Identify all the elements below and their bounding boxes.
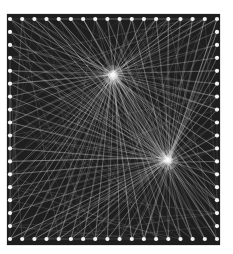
nail [215,43,219,47]
nail [130,237,134,241]
nail [105,237,109,241]
nail [215,224,219,228]
upper-focal-point [111,73,116,78]
nail [215,108,219,112]
nail [142,17,146,21]
nail [81,17,85,21]
nail [93,237,97,241]
nail [57,237,61,241]
nail [166,17,170,21]
nail [215,146,219,150]
nail [166,237,170,241]
lower-focal-point [166,158,171,163]
nail [203,237,207,241]
nail [215,237,219,241]
nail [8,224,12,228]
nail [215,82,219,86]
nail [44,17,48,21]
nail [215,95,219,99]
nail [93,17,97,21]
nail [8,133,12,137]
nail [8,211,12,215]
nail [203,17,207,21]
nail [215,120,219,124]
nail [215,185,219,189]
nail [191,237,195,241]
nail [215,17,219,21]
nail [215,198,219,202]
nail [215,30,219,34]
nail [20,17,24,21]
nail [8,69,12,73]
nail [8,17,12,21]
nail [118,17,122,21]
string-art-threads-and-nails [0,0,233,254]
nail [215,211,219,215]
nail [69,17,73,21]
nail [32,17,36,21]
nail [8,198,12,202]
nail [154,17,158,21]
nail [8,30,12,34]
nail [130,17,134,21]
nail [178,17,182,21]
nail [8,108,12,112]
nail [8,95,12,99]
nail [215,159,219,163]
nail [20,237,24,241]
nail [8,185,12,189]
nail [105,17,109,21]
nail [142,237,146,241]
nail [32,237,36,241]
nail [215,133,219,137]
nail [8,172,12,176]
nail [8,237,12,241]
nail [154,237,158,241]
nail [178,237,182,241]
nail [118,237,122,241]
nail [8,159,12,163]
nail [57,17,61,21]
nail [8,120,12,124]
nail [8,43,12,47]
nail [8,146,12,150]
string-art-photo [0,0,233,254]
nail [191,17,195,21]
nail [44,237,48,241]
nail [215,56,219,60]
nail [8,82,12,86]
nail [215,172,219,176]
nail [81,237,85,241]
nail [8,56,12,60]
nail [215,69,219,73]
nail [69,237,73,241]
